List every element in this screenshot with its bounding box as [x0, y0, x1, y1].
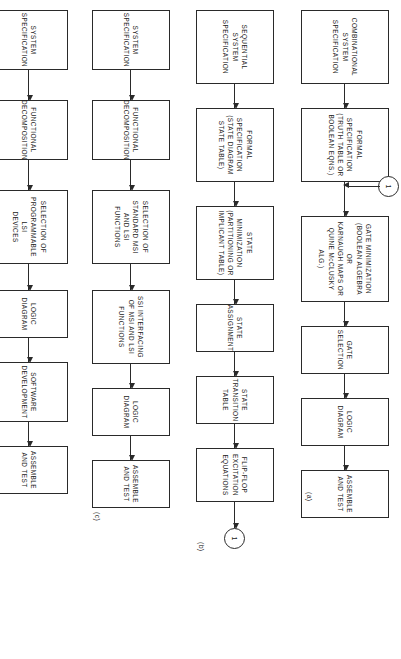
node-b-1: FORMAL SPECIFICATION (STATE DIAGRAM STAT… [196, 108, 274, 182]
flow-panel-b: SEQUENTIAL SYSTEM SPECIFICATION FORMAL S… [189, 0, 281, 659]
arrow-b-4 [235, 424, 236, 448]
panel-label-c: (c) [94, 512, 101, 521]
arrow-d-0 [29, 70, 30, 100]
node-b-0: SEQUENTIAL SYSTEM SPECIFICATION [196, 10, 274, 84]
arrow-b-2 [235, 280, 236, 304]
flow-panel-c: SYSTEM SPECIFICATION FUNCTIONAL DECOMPOS… [85, 0, 177, 659]
node-a-2: GATE MINIMIZATION (BOOLEAN ALGEBRA OR KA… [301, 216, 389, 302]
arrow-c-4 [131, 436, 132, 460]
node-a-3: GATE SELECTION [301, 326, 389, 374]
node-c-4: LOGIC DIAGRAM [92, 388, 170, 436]
node-a-0: COMBINATIONAL SYSTEM SPECIFICATION [301, 10, 389, 84]
node-c-0: SYSTEM SPECIFICATION [92, 10, 170, 70]
arrow-c-2 [131, 264, 132, 290]
arrow-d-2 [29, 264, 30, 290]
node-d-5: ASSEMBLE AND TEST [0, 446, 68, 494]
node-b-2: STATE MINIMIZATION (PARTITIONING OR IMPL… [196, 206, 274, 280]
panel-label-a: (a) [306, 492, 313, 501]
arrow-c-0 [131, 70, 132, 100]
node-b-3: STATE ASSIGNMENT [196, 304, 274, 352]
feedback-connector-a: 1 [341, 166, 399, 206]
node-a-5: ASSEMBLE AND TEST [301, 470, 389, 518]
arrow-d-1 [29, 160, 30, 190]
node-d-4: SOFTWARE DEVELOPMENT [0, 362, 68, 422]
node-b-5: FLIP-FLOP EXCITATION EQUATIONS [196, 448, 274, 502]
arrow-b-5 [235, 502, 236, 528]
node-c-2: SELECTION OF STANDARD MSI AND LSI FUNCTI… [92, 190, 170, 264]
flow-panel-d: SYSTEM SPECIFICATION FUNCTIONAL DECOMPOS… [0, 0, 75, 659]
figure-canvas: COMBINATIONAL SYSTEM SPECIFICATION FORMA… [0, 0, 401, 659]
arrow-d-3 [29, 338, 30, 362]
node-d-2: SELECTION OF PROGRAMMABLE LSI DEVICES [0, 190, 68, 264]
arrow-b-0 [235, 84, 236, 108]
node-c-1: FUNCTIONAL DECOMPOSITION [92, 100, 170, 160]
panel-label-b: (b) [198, 542, 205, 551]
node-d-1: FUNCTIONAL DECOMPOSITION [0, 100, 68, 160]
arrow-b-3 [235, 352, 236, 376]
node-d-0: SYSTEM SPECIFICATION [0, 10, 68, 70]
arrow-b-1 [235, 182, 236, 206]
connector-circle-out-b: 1 [225, 528, 246, 549]
arrow-a-0 [345, 84, 346, 108]
flow-panel-a: COMBINATIONAL SYSTEM SPECIFICATION FORMA… [289, 0, 401, 659]
arrow-c-3 [131, 364, 132, 388]
node-b-4: STATE TRANSITION TABLE [196, 376, 274, 424]
connector-drop-line-a [347, 186, 380, 187]
connector-drop-arrowhead-a [343, 182, 349, 188]
arrow-d-4 [29, 422, 30, 446]
node-c-3: SSI INTERFACING OF MSI AND LSI FUNCTIONS [92, 290, 170, 364]
connector-circle-in-a: 1 [378, 176, 399, 197]
node-c-5: ASSEMBLE AND TEST [92, 460, 170, 508]
node-d-3: LOGIC DIAGRAM [0, 290, 68, 338]
arrow-a-3 [345, 374, 346, 398]
arrow-c-1 [131, 160, 132, 190]
node-a-4: LOGIC DIAGRAM [301, 398, 389, 446]
arrow-a-2 [345, 302, 346, 326]
arrow-a-4 [345, 446, 346, 470]
